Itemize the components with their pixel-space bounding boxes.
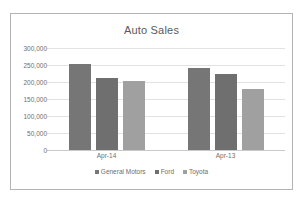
y-axis-labels: 300,000250,000200,000150,000100,00050,00… [3,48,47,150]
bar-group [47,48,166,150]
x-axis-tick-label: Apr-13 [216,152,236,159]
legend-swatch-icon [183,170,187,174]
y-axis-tick-label: 0 [7,147,47,154]
y-axis-tick-label: 250,000 [7,62,47,69]
bar-series-area [47,48,285,150]
legend-label: General Motors [101,168,146,175]
bar-group [166,48,285,150]
legend-swatch-icon [155,170,159,174]
y-axis-tick-label: 50,000 [7,130,47,137]
legend-item[interactable]: Ford [155,168,174,175]
legend-item[interactable]: Toyota [183,168,208,175]
bar[interactable] [96,78,118,150]
bar[interactable] [188,68,210,150]
legend-label: Ford [161,168,174,175]
chart-frame: Auto Sales 300,000250,000200,000150,0001… [10,13,293,190]
chart-title: Auto Sales [11,24,292,36]
y-axis-tick-label: 300,000 [7,45,47,52]
bar[interactable] [242,89,264,150]
bar[interactable] [215,74,237,150]
x-axis-labels: Apr-14Apr-13 [47,152,285,166]
y-axis-tick-label: 150,000 [7,96,47,103]
y-axis-tick-label: 200,000 [7,79,47,86]
legend-item[interactable]: General Motors [95,168,146,175]
x-axis-tick-label: Apr-14 [97,152,117,159]
bar[interactable] [69,64,91,150]
y-axis-tick-label: 100,000 [7,113,47,120]
chart-legend: General MotorsFordToyota [11,168,292,175]
legend-swatch-icon [95,170,99,174]
axis-baseline [47,150,285,151]
bar[interactable] [123,81,145,150]
legend-label: Toyota [189,168,208,175]
